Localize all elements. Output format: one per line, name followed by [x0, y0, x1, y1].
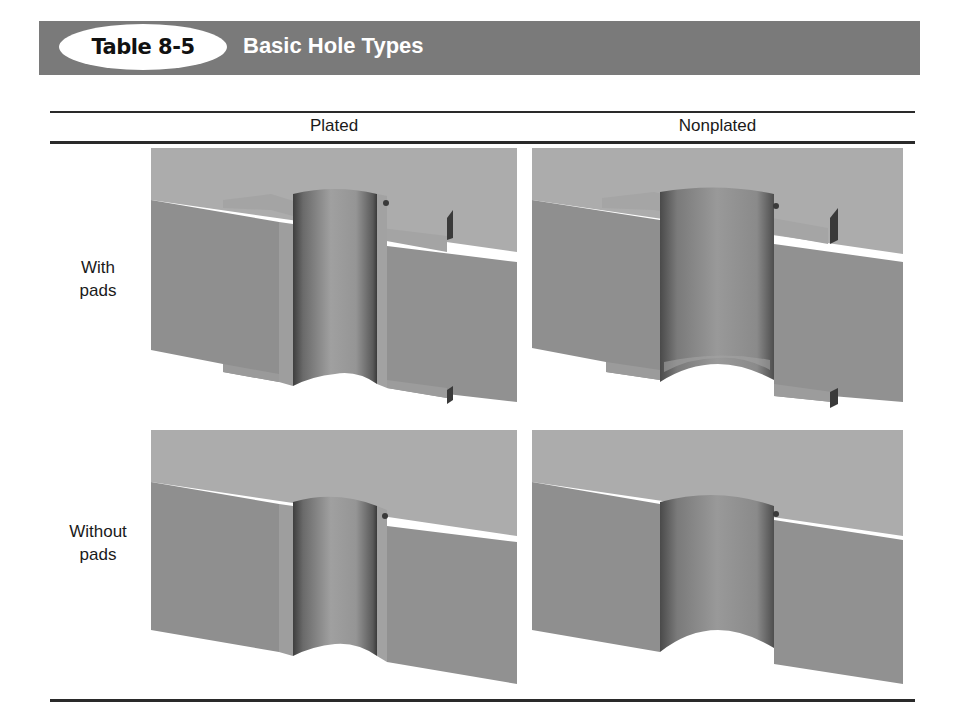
row-label-line1: With	[50, 256, 146, 279]
table-bottom-rule	[50, 699, 915, 702]
table-top-rule	[50, 111, 915, 113]
row-label-without-pads: Without pads	[50, 520, 146, 566]
row-label-line2: pads	[50, 279, 146, 302]
table-number-badge: Table 8-5	[59, 24, 227, 70]
table-title-bar: Table 8-5 Basic Hole Types	[39, 21, 920, 75]
column-header-nonplated: Nonplated	[532, 116, 903, 136]
table-header-rule	[50, 141, 915, 144]
nonplated-with-pads-figure	[532, 148, 903, 410]
table-number: Table 8-5	[91, 35, 194, 59]
plated-without-pads-figure	[151, 430, 517, 686]
column-header-plated: Plated	[151, 116, 517, 136]
plated-with-pads-figure	[151, 148, 517, 406]
row-label-with-pads: With pads	[50, 256, 146, 302]
table-title: Basic Hole Types	[243, 33, 424, 59]
row-label-line1: Without	[50, 520, 146, 543]
nonplated-without-pads-figure	[532, 430, 903, 688]
row-label-line2: pads	[50, 543, 146, 566]
